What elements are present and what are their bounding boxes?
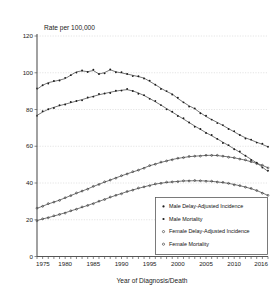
series-1-point-24 xyxy=(171,111,173,113)
series-1-point-16 xyxy=(126,88,128,90)
series-0-point-31 xyxy=(211,119,213,121)
y-tick-label-100: 100 xyxy=(23,69,34,76)
series-1-point-3 xyxy=(53,107,55,109)
series-1-point-4 xyxy=(59,104,61,106)
series-1-point-30 xyxy=(205,132,207,134)
series-0-point-1 xyxy=(42,84,44,86)
series-1-point-13 xyxy=(109,92,111,94)
x-tick-label-1995: 1995 xyxy=(143,260,157,267)
series-0-point-7 xyxy=(75,72,77,74)
series-1-point-9 xyxy=(87,97,89,99)
series-1-point-27 xyxy=(188,122,190,124)
series-1-point-15 xyxy=(121,90,123,92)
series-1-point-17 xyxy=(132,90,134,92)
series-0-point-39 xyxy=(256,142,258,144)
series-0-point-38 xyxy=(250,139,252,141)
series-1-point-41 xyxy=(267,170,269,172)
x-tick-label-1990: 1990 xyxy=(115,260,129,267)
series-0-point-12 xyxy=(104,72,106,74)
series-0-point-8 xyxy=(81,70,83,72)
series-0-point-23 xyxy=(166,90,168,92)
series-0-point-4 xyxy=(59,80,61,82)
y-tick-label-60: 60 xyxy=(26,142,33,149)
series-1-point-23 xyxy=(166,108,168,110)
series-1-point-36 xyxy=(239,151,241,153)
series-1-point-25 xyxy=(177,115,179,117)
legend-label-1[interactable]: Male Mortality xyxy=(169,216,203,222)
series-0-point-28 xyxy=(194,107,196,109)
series-1-point-28 xyxy=(194,126,196,128)
series-0-point-33 xyxy=(222,124,224,126)
x-tick-label-1985: 1985 xyxy=(86,260,100,267)
legend-label-2[interactable]: Female Delay-Adjusted Incidence xyxy=(169,228,250,234)
series-0-point-29 xyxy=(199,112,201,114)
x-tick-label-2016: 2016 xyxy=(254,260,268,267)
series-0-point-20 xyxy=(149,80,151,82)
series-1-point-6 xyxy=(70,101,72,103)
series-1-point-10 xyxy=(92,96,94,98)
series-1-point-8 xyxy=(81,99,83,101)
x-tick-label-2000: 2000 xyxy=(171,260,185,267)
line-chart: 020406080100120 197519801985199019952000… xyxy=(0,0,280,290)
y-tick-label-80: 80 xyxy=(26,106,33,113)
series-0-point-41 xyxy=(267,146,269,148)
series-0-point-21 xyxy=(154,84,156,86)
series-1-point-33 xyxy=(222,142,224,144)
series-1-point-18 xyxy=(137,93,139,95)
series-1-point-37 xyxy=(245,155,247,157)
x-tick-label-1980: 1980 xyxy=(58,260,72,267)
series-1-point-22 xyxy=(160,104,162,106)
series-1-point-34 xyxy=(228,144,230,146)
series-1-point-35 xyxy=(233,148,235,150)
series-1-point-32 xyxy=(216,138,218,140)
series-0-point-2 xyxy=(47,82,49,84)
series-0-point-34 xyxy=(228,128,230,130)
series-1-point-40 xyxy=(261,167,263,169)
y-tick-label-40: 40 xyxy=(26,179,33,186)
series-0-point-3 xyxy=(53,80,55,82)
series-0-point-15 xyxy=(121,71,123,73)
series-1-point-7 xyxy=(75,100,77,102)
series-0-point-13 xyxy=(109,68,111,70)
series-1-point-5 xyxy=(64,104,66,106)
series-1-point-31 xyxy=(211,134,213,136)
series-0-point-27 xyxy=(188,106,190,108)
series-0-point-24 xyxy=(171,93,173,95)
series-0-point-6 xyxy=(70,74,72,76)
series-1-point-11 xyxy=(98,93,100,95)
series-1-point-21 xyxy=(154,100,156,102)
legend[interactable]: Male Delay-Adjusted IncidenceMale Mortal… xyxy=(156,198,268,255)
x-tick-label-2010: 2010 xyxy=(227,260,241,267)
series-0-point-18 xyxy=(137,75,139,77)
y-axis-title: Rate per 100,000 xyxy=(44,24,95,32)
legend-marker-1 xyxy=(162,218,164,220)
series-1-point-19 xyxy=(143,94,145,96)
series-0-point-36 xyxy=(239,134,241,136)
series-1-point-14 xyxy=(115,90,117,92)
legend-marker-0 xyxy=(162,205,164,207)
legend-label-3[interactable]: Female Mortality xyxy=(169,241,209,247)
series-0-point-22 xyxy=(160,88,162,90)
series-1-point-1 xyxy=(42,110,44,112)
series-1-point-20 xyxy=(149,98,151,100)
series-0-point-17 xyxy=(132,75,134,77)
series-0-point-26 xyxy=(183,101,185,103)
series-0-point-35 xyxy=(233,130,235,132)
series-0-point-14 xyxy=(115,71,117,73)
series-1-point-26 xyxy=(183,117,185,119)
series-0-point-40 xyxy=(261,143,263,145)
y-tick-label-20: 20 xyxy=(26,216,33,223)
series-1-point-29 xyxy=(199,128,201,130)
series-0-point-30 xyxy=(205,115,207,117)
series-0-point-32 xyxy=(216,122,218,124)
y-tick-label-120: 120 xyxy=(23,32,34,39)
chart-container: 020406080100120 197519801985199019952000… xyxy=(0,0,280,290)
y-tick-label-0: 0 xyxy=(30,253,34,260)
series-0-point-16 xyxy=(126,73,128,75)
x-tick-label-1975: 1975 xyxy=(36,260,50,267)
series-0-point-25 xyxy=(177,97,179,99)
x-tick-label-2005: 2005 xyxy=(199,260,213,267)
legend-label-0[interactable]: Male Delay-Adjusted Incidence xyxy=(169,203,243,209)
series-0-point-19 xyxy=(143,78,145,80)
series-0-point-9 xyxy=(87,71,89,73)
